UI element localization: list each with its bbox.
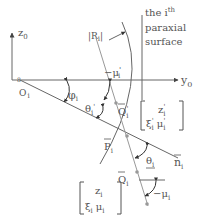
out-vector-row1: zi' xyxy=(158,103,166,118)
in-vector-row2: ξiμi xyxy=(85,201,105,215)
point-q xyxy=(135,170,139,174)
point-q-prime xyxy=(114,101,118,105)
surface-title-line3: surface xyxy=(145,36,183,47)
q-prime-label: Qi' xyxy=(118,105,129,120)
out-vector-row2: ξi'μi' xyxy=(146,117,166,132)
mu-prime-label: −μ'i xyxy=(104,65,121,80)
in-vector-right-bracket xyxy=(117,182,121,214)
phi-label: φi xyxy=(68,89,79,103)
origin-mark: 8 xyxy=(17,76,21,83)
theta-prime-arc xyxy=(96,107,103,118)
z-axis-label: z0 xyxy=(18,27,28,41)
normal-line xyxy=(20,80,178,158)
theta-label: θi xyxy=(146,155,155,169)
y-axis-label: y0 xyxy=(180,74,192,89)
in-vector-row1: zi xyxy=(95,185,103,199)
surface-title-line2: paraxial xyxy=(145,22,186,33)
origin-label: Oi xyxy=(19,88,30,100)
optics-diagram: z0 y0 8 Oi |Ri| the ith paraxial surface… xyxy=(0,0,202,224)
ray-end-point xyxy=(145,202,149,206)
radius-arrow xyxy=(109,32,125,40)
in-vector-left-bracket xyxy=(80,182,84,214)
out-vector-left-bracket xyxy=(141,101,145,130)
q-label: Qi xyxy=(118,174,129,188)
theta-prime-label: θi' xyxy=(85,103,95,117)
radius-label: |Ri| xyxy=(88,31,103,43)
mu-label: −μi xyxy=(153,188,171,202)
p-label: Pi xyxy=(104,141,114,155)
point-p xyxy=(125,134,129,138)
normal-label: ni xyxy=(174,156,184,171)
mu-prime-arc xyxy=(104,82,110,100)
surface-title-line1: the ith xyxy=(145,6,176,18)
out-vector-right-bracket xyxy=(179,101,183,130)
